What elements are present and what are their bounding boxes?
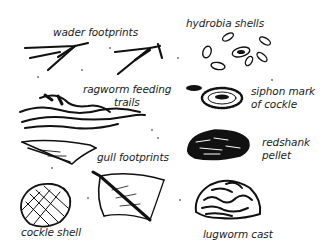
gull-footprint-upper-icon <box>22 141 96 164</box>
label-redshank-line1: redshank <box>262 136 310 148</box>
label-siphon-mark-line2: of cockle <box>251 98 297 110</box>
siphon-mark-icon <box>186 85 242 108</box>
wader-footprint-left-icon <box>25 43 88 70</box>
redshank-pellet-icon <box>188 130 249 160</box>
label-cockle-shell: cockle shell <box>21 226 81 238</box>
gull-footprint-lower-icon <box>93 172 164 220</box>
lugworm-cast-icon <box>196 181 261 219</box>
label-wader-footprints: wader footprints <box>53 26 138 38</box>
label-gull-footprints: gull footprints <box>97 151 169 163</box>
label-hydrobia-shells: hydrobia shells <box>186 17 264 29</box>
cockle-shell-icon <box>21 184 70 227</box>
hydrobia-shells-icon <box>201 31 272 70</box>
label-redshank-line2: pellet <box>262 149 291 161</box>
illustration-canvas <box>0 0 327 250</box>
label-siphon-mark-line1: siphon mark <box>251 85 315 97</box>
label-ragworm-feeding-trails-line2: trails <box>114 96 140 108</box>
label-lugworm-cast: lugworm cast <box>203 228 273 240</box>
label-ragworm-feeding-trails-line1: ragworm feeding <box>83 83 171 95</box>
wader-footprint-right-icon <box>115 44 162 74</box>
